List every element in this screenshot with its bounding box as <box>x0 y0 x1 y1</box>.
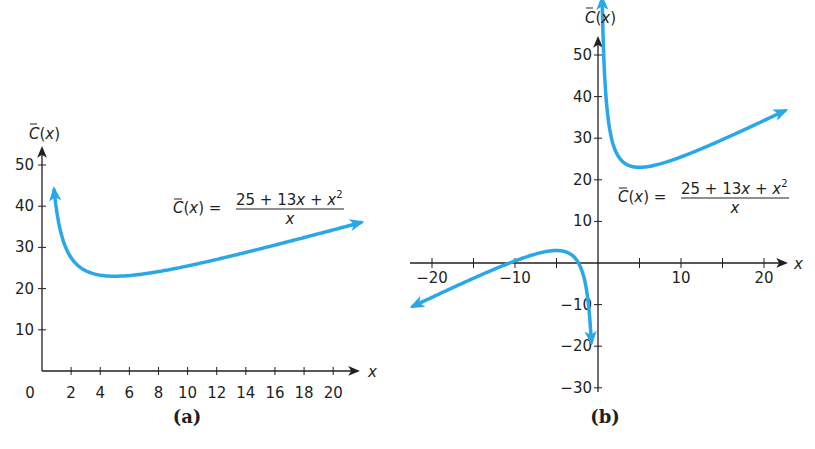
chart-panel-b: x−20−101020−30−20−101020304050 C(x) C(x)… <box>410 0 803 427</box>
chart-panel-a: x024681012141618201020304050 C(x) C(x) =… <box>15 124 377 427</box>
y-axis-title-b: C(x) <box>585 9 616 27</box>
panel-label-a: (a) <box>173 406 202 427</box>
y-tick-label-a: 30 <box>15 238 34 256</box>
svg-text:25 + 13x + x2: 25 + 13x + x2 <box>236 189 343 209</box>
x-tick-label-b: 20 <box>754 269 773 287</box>
x-tick-label-a: 12 <box>207 384 226 402</box>
chart-figure: x024681012141618201020304050 C(x) C(x) =… <box>0 0 815 449</box>
x-tick-label-a: 6 <box>125 384 135 402</box>
panel-label-b: (b) <box>590 406 620 427</box>
svg-text:x: x <box>730 199 740 217</box>
y-tick-label-a: 20 <box>15 280 34 298</box>
y-axis-title-a: C(x) <box>29 125 60 143</box>
y-tick-label-b: −20 <box>560 337 592 355</box>
y-tick-label-b: 40 <box>573 88 592 106</box>
svg-text:x: x <box>285 210 295 228</box>
x-tick-label-a: 16 <box>265 384 284 402</box>
x-tick-label-a: 10 <box>178 384 197 402</box>
x-tick-label-a: 4 <box>95 384 105 402</box>
formula-b: C(x) =25 + 13x + x2x <box>618 178 789 217</box>
y-tick-label-b: −30 <box>560 379 592 397</box>
y-tick-label-b: 30 <box>573 129 592 147</box>
x-axis-title-b: x <box>793 255 803 273</box>
x-tick-label-b: 10 <box>671 269 690 287</box>
y-tick-label-b: 20 <box>573 171 592 189</box>
y-tick-label-b: 10 <box>573 212 592 230</box>
svg-text:25 + 13x + x2: 25 + 13x + x2 <box>681 178 788 198</box>
y-tick-label-a: 50 <box>15 156 34 174</box>
y-tick-label-b: 50 <box>573 46 592 64</box>
origin-label-a: 0 <box>25 384 35 402</box>
cost-curve-b <box>413 0 785 342</box>
x-tick-label-a: 8 <box>154 384 164 402</box>
svg-text:C(x) =: C(x) = <box>173 199 221 217</box>
x-tick-label-a: 20 <box>324 384 343 402</box>
svg-text:C(x) =: C(x) = <box>618 188 666 206</box>
formula-a: C(x) =25 + 13x + x2x <box>173 189 344 228</box>
x-tick-label-a: 18 <box>295 384 314 402</box>
x-tick-label-b: −20 <box>416 269 448 287</box>
y-tick-label-a: 10 <box>15 321 34 339</box>
y-tick-label-a: 40 <box>15 197 34 215</box>
x-tick-label-a: 2 <box>66 384 76 402</box>
x-tick-label-a: 14 <box>236 384 255 402</box>
axes-a: x024681012141618201020304050 <box>15 148 377 402</box>
x-tick-label-b: −10 <box>499 269 531 287</box>
x-axis-title-a: x <box>367 363 377 381</box>
